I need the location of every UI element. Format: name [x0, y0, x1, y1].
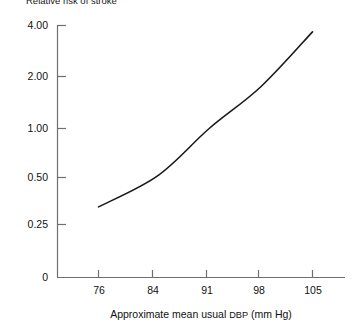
x-axis-title-after: (mm Hg): [248, 308, 292, 320]
y-tick-label-2.00: 2.00: [8, 71, 48, 82]
y-tick-label-0.50: 0.50: [8, 172, 48, 183]
x-axis-title-before: Approximate mean usual: [110, 308, 229, 320]
x-tick-label-91: 91: [187, 285, 227, 296]
chart-figure: Relative risk of stroke 4.00 2.00 1.00 0…: [0, 0, 354, 334]
x-tick-label-105: 105: [293, 285, 333, 296]
y-tick-label-4.00: 4.00: [8, 20, 48, 31]
x-axis-title-acronym: DBP: [229, 310, 248, 320]
y-tick-label-0.25: 0.25: [8, 219, 48, 230]
y-tick-label-0: 0: [8, 272, 48, 283]
x-tick-label-98: 98: [239, 285, 279, 296]
plot-area: [0, 0, 354, 334]
x-axis-title: Approximate mean usual DBP (mm Hg): [57, 308, 345, 321]
x-tick-label-84: 84: [133, 285, 173, 296]
x-tick-label-76: 76: [79, 285, 119, 296]
y-tick-label-1.00: 1.00: [8, 123, 48, 134]
risk-curve: [99, 32, 313, 207]
